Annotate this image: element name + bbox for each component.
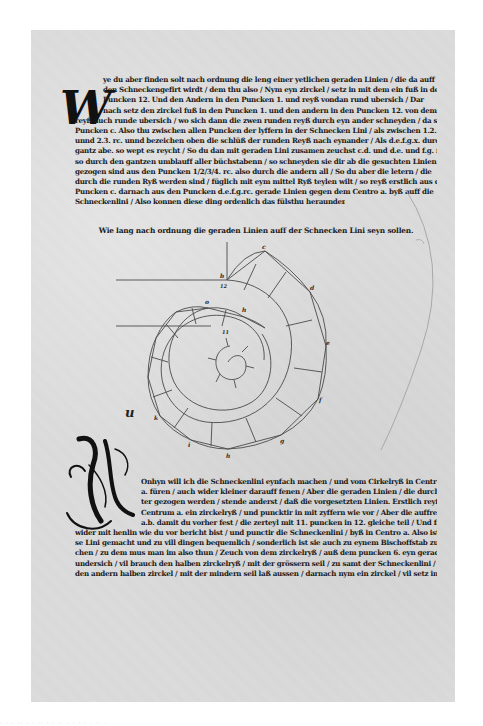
text-line: Centrum a. ein zirckelryß / und puncktir… — [75, 508, 437, 518]
bottom-paragraph: Onhyn will ich die Schneckenlini eynfach… — [75, 477, 437, 579]
diagram-heading: Wie lang nach ordnung die geraden Linien… — [86, 226, 426, 235]
text-line: ye du aber finden solt nach ordnung die … — [75, 75, 437, 85]
text-line: Schneckenlini / Also konnen diese ding o… — [75, 197, 345, 207]
text-line: wider mit henlin wie du vor bericht bist… — [75, 528, 437, 538]
label-h: h — [226, 452, 230, 459]
text-line: gantz abe. so wept es reycht / So du dan… — [75, 146, 437, 156]
text-line: ter gezogen werden / stende anderst / da… — [75, 497, 437, 507]
book-page: W ye du aber finden solt nach ordnung di… — [31, 30, 455, 702]
text-line: undersich / vil brauch den halben zircke… — [75, 559, 437, 569]
label-c: c — [262, 243, 266, 250]
text-line: a.b. damit du vorher fest / die zerteyl … — [75, 518, 437, 528]
bleed-through-curve — [376, 180, 476, 460]
text-line: den Schneckengefirt wirdt / dem thu also… — [75, 85, 437, 95]
text-line: gezogen sind aus den Puncken 1/2/3/4. rc… — [75, 167, 437, 177]
label-g: g — [280, 437, 284, 445]
label-d: d — [310, 284, 315, 291]
label-f: f — [318, 396, 323, 404]
marginal-mark: u — [125, 405, 134, 420]
label-i: i — [188, 441, 191, 448]
text-line: se Lini gemacht und zu vill dingen beque… — [75, 538, 437, 548]
text-line: Puncken c. Also thu zwischen allen Punck… — [75, 126, 437, 136]
label-12: 12 — [220, 283, 227, 289]
label-e: e — [326, 339, 330, 346]
text-line: den andern halben zirckel / mit der mind… — [75, 569, 437, 579]
text-line: a. füren / auch wider kleiner darauff fe… — [75, 487, 437, 497]
text-line: chen / zu dem mus man im also thun / Zeu… — [75, 548, 437, 558]
cutoff-caption: · · · ·· · · ·· · · ·· · · · · · ·· · — [0, 719, 483, 726]
text-line: Onhyn will ich die Schneckenlini eynfach… — [75, 477, 437, 487]
label-k: k — [154, 414, 158, 421]
text-line: Puncken 12. Und den Andern in den Puncke… — [75, 95, 437, 105]
label-11: 11 — [222, 329, 229, 335]
spiral-diagram: b 12 c d e f g h i k o h 11 — [116, 242, 376, 492]
label-inner-h: h — [242, 306, 246, 313]
text-line: reyß auch runde ubersich / wo sich dann … — [75, 116, 437, 126]
text-line: unnd 2.3. rc. unnd bezeichen oben die sc… — [75, 136, 437, 146]
text-line: so durch den gantzen umblauff aller büch… — [75, 157, 437, 167]
label-o: o — [205, 298, 209, 305]
label-b: b — [220, 272, 224, 279]
text-line: nach setz den zirckel fuß in den Puncken… — [75, 106, 437, 116]
